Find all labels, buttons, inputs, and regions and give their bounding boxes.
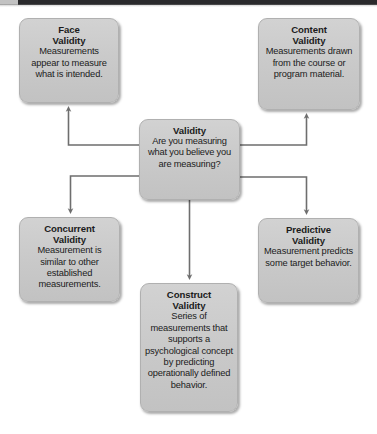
node-construct-validity-title-line2: Validity [173,300,206,311]
node-concurrent-validity[interactable]: Concurrent Validity Measurement is simil… [19,217,120,302]
node-content-validity-body: Measurements drawn from the course or pr… [263,46,355,80]
node-validity-root[interactable]: Validity Are you measuring what you beli… [139,119,240,200]
node-face-validity-body: Measurements appear to measure what is i… [24,46,114,80]
node-predictive-validity-title-line1: Predictive [286,224,331,235]
node-predictive-validity-body: Measurement predicts some target behavio… [263,246,354,268]
node-concurrent-validity-title-line2: Validity [53,234,86,245]
node-validity-root-title: Validity [173,125,206,136]
node-face-validity[interactable]: Face Validity Measurements appear to mea… [19,18,119,103]
connector-validity-to-predictive [240,177,307,212]
node-predictive-validity-title: Predictive Validity [286,224,331,246]
node-content-validity-title-line2: Validity [293,35,326,46]
connector-validity-to-concurrent [71,176,140,211]
node-concurrent-validity-title-line1: Concurrent [44,223,95,234]
node-construct-validity[interactable]: Construct Validity Series of measurement… [140,283,238,412]
node-construct-validity-title-line1: Construct [167,289,211,300]
node-face-validity-title-line1: Face [58,24,79,35]
diagram-canvas: Face Validity Measurements appear to mea… [0,0,377,434]
node-construct-validity-body: Series of measurements that supports a p… [145,311,233,391]
node-concurrent-validity-title: Concurrent Validity [44,223,95,245]
node-face-validity-title-line2: Validity [53,35,86,46]
node-content-validity[interactable]: Content Validity Measurements drawn from… [258,18,360,110]
connector-validity-to-content [240,116,307,145]
node-content-validity-title-line1: Content [291,24,327,35]
node-predictive-validity-title-line2: Validity [292,235,325,246]
node-face-validity-title: Face Validity [53,24,86,46]
node-content-validity-title: Content Validity [291,24,327,46]
node-validity-root-body: Are you measuring what you believe you a… [144,136,235,170]
node-construct-validity-title: Construct Validity [167,289,211,311]
node-predictive-validity[interactable]: Predictive Validity Measurement predicts… [258,218,359,303]
connector-validity-to-face [69,109,140,145]
node-concurrent-validity-body: Measurement is similar to other establis… [24,245,115,290]
